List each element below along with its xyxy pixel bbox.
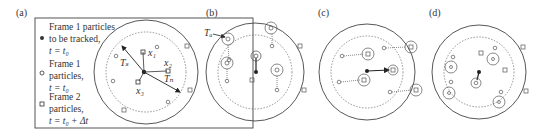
displacement xyxy=(367,70,389,71)
frame1-particle xyxy=(340,54,344,58)
panel-c: (c) xyxy=(318,7,422,120)
frame1-particle xyxy=(450,66,453,69)
frame2-particle xyxy=(185,44,189,48)
frame1-particle xyxy=(451,55,455,59)
legend-item-3-line-3: t = t₀ + Δt xyxy=(49,116,88,126)
candidate-region xyxy=(221,57,233,69)
candidate-region xyxy=(471,78,481,88)
frame1-particle xyxy=(269,26,273,30)
candidate-region xyxy=(493,96,505,108)
open-square-icon xyxy=(40,102,44,106)
frame1-particle xyxy=(499,90,503,94)
ta-label: Tₐ xyxy=(204,27,213,38)
frame2-particle xyxy=(366,52,370,56)
frame2-particle xyxy=(524,89,528,93)
frame2-particle xyxy=(521,45,525,49)
link xyxy=(392,90,412,92)
frame1-particle xyxy=(448,92,451,95)
x3-label: x₃ xyxy=(135,85,144,96)
candidate-region xyxy=(443,87,455,99)
frame2-particle xyxy=(122,108,126,112)
frame1-particle xyxy=(254,54,258,58)
frame1-particle xyxy=(493,46,497,50)
ts-label: Tₛ xyxy=(120,57,129,68)
panel-a: (a) Frame 1 particles to be tracked, t =… xyxy=(16,7,253,128)
legend-item-1-line-2: to be tracked, xyxy=(49,34,100,44)
legend: Frame 1 particles to be tracked, t = t₀ … xyxy=(40,22,115,126)
frame1-particle xyxy=(474,81,478,85)
frame1-particle xyxy=(226,37,230,41)
legend-item-2-line-1: Frame 1 xyxy=(49,59,81,69)
x1-label: x₁ xyxy=(147,47,156,58)
candidate-region xyxy=(388,65,398,75)
legend-item-2-line-2: particles, xyxy=(49,71,84,81)
frame1-particle xyxy=(166,100,170,104)
candidate-region xyxy=(265,22,277,34)
frame2-particle xyxy=(414,88,418,92)
frame1-particle xyxy=(449,80,453,84)
frame1-particle xyxy=(337,80,341,84)
vector-x1 xyxy=(143,52,144,72)
open-circle-icon xyxy=(40,71,44,75)
frame2-particle xyxy=(302,88,306,92)
frame1-particle xyxy=(388,90,392,94)
frame1-particle xyxy=(111,79,115,83)
panel-b-label: (b) xyxy=(206,7,218,19)
link xyxy=(386,47,406,48)
frame1-particle xyxy=(225,61,229,65)
candidate-region xyxy=(405,41,417,53)
candidate-region xyxy=(362,48,374,60)
frame2-particle xyxy=(503,68,507,72)
panel-c-label: (c) xyxy=(318,7,329,19)
link xyxy=(341,80,360,82)
panel-d: (d) xyxy=(429,7,528,119)
frame2-particle xyxy=(409,45,413,49)
filled-dot-icon xyxy=(40,36,44,40)
legend-item-3-line-1: Frame 2 xyxy=(49,92,81,102)
particle-tracking-figure: (a) Frame 1 particles to be tracked, t =… xyxy=(0,0,546,137)
frame1-particle xyxy=(492,58,495,61)
panel-d-label: (d) xyxy=(429,7,441,19)
legend-item-3-line-2: particles, xyxy=(49,104,84,114)
panel-b: (b) Tₐ xyxy=(204,7,306,121)
frame1-particle xyxy=(382,46,386,50)
frame2-particle xyxy=(391,68,395,72)
candidate-region xyxy=(487,53,499,65)
tn-label: Tₙ xyxy=(164,73,174,84)
candidate-region xyxy=(445,61,457,73)
frame1-particle xyxy=(275,68,279,72)
vector-x2 xyxy=(144,71,167,72)
link xyxy=(344,54,364,56)
frame2-particle xyxy=(479,51,483,55)
candidate-region xyxy=(271,64,283,76)
frame2-particle xyxy=(298,44,302,48)
tn-radius-arrow xyxy=(144,72,180,92)
x2-label: x₂ xyxy=(163,57,172,68)
frame2-particle xyxy=(362,78,366,82)
frame1-particle xyxy=(114,54,118,58)
legend-item-1-line-3: t = t₀ xyxy=(49,46,69,56)
panel-a-label: (a) xyxy=(16,7,27,19)
candidate-region xyxy=(222,33,234,45)
frame2-particle xyxy=(188,88,192,92)
legend-item-1-line-1: Frame 1 particles xyxy=(49,22,115,32)
link xyxy=(228,45,229,60)
